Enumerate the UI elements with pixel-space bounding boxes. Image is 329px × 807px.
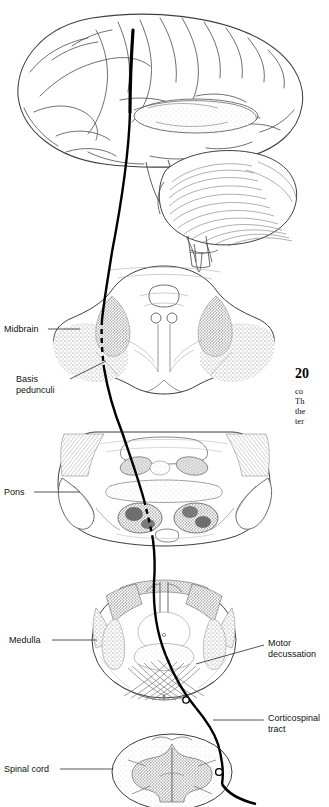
spinal-cord-cross-section xyxy=(112,734,232,807)
label-corticospinal-tract-line2: tract xyxy=(268,724,320,735)
label-basis-pedunculi-line2: pedunculi xyxy=(16,385,55,396)
label-corticospinal-tract: Corticospinal tract xyxy=(268,713,320,734)
label-motor-decussation-line1: Motor xyxy=(268,638,316,649)
figure-number: 20 xyxy=(295,366,329,382)
label-basis-pedunculi-line1: Basis xyxy=(16,374,55,385)
caption-line-4: ter xyxy=(295,416,329,426)
label-pons: Pons xyxy=(4,487,25,498)
cerebellum xyxy=(158,151,297,246)
label-motor-decussation-line2: decussation xyxy=(268,649,316,660)
label-medulla: Medulla xyxy=(9,635,41,646)
caption-line-1: co xyxy=(295,386,329,396)
midbrain-cross-section xyxy=(53,266,275,394)
anatomy-illustration xyxy=(0,0,329,807)
figure-caption-body: co Th the ter xyxy=(295,386,329,426)
pons-cross-section xyxy=(58,432,272,546)
caption-line-2: Th xyxy=(295,396,329,406)
label-basis-pedunculi: Basis pedunculi xyxy=(16,374,55,395)
label-motor-decussation: Motor decussation xyxy=(268,638,316,659)
label-spinal-cord: Spinal cord xyxy=(4,764,49,775)
medulla-cross-section xyxy=(92,580,236,700)
caption-line-3: the xyxy=(295,406,329,416)
sylvian-ellipse-region xyxy=(134,99,258,133)
label-corticospinal-tract-line1: Corticospinal xyxy=(268,713,320,724)
cerebrum-lateral-view xyxy=(18,14,303,167)
label-midbrain: Midbrain xyxy=(4,324,39,335)
figure-caption: 20 co Th the ter xyxy=(295,366,329,426)
leader-lines xyxy=(34,329,264,769)
corticospinal-tract-figure xyxy=(0,0,329,807)
